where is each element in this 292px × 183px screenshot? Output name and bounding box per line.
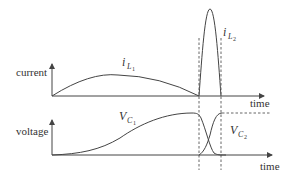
il1-label: i L 1 (122, 55, 135, 72)
voltage-axis-label: voltage (16, 125, 48, 137)
vc2-label: V C 2 (230, 123, 247, 140)
voltage-panel: voltage time V C 1 V C 2 (16, 109, 280, 172)
switching-waveform-diagram: current time i L 1 i L 2 voltage time V … (0, 0, 292, 183)
svg-text:1: 1 (133, 120, 136, 126)
current-time-label: time (250, 97, 270, 109)
current-axis-label: current (16, 66, 47, 78)
svg-text:1: 1 (132, 66, 135, 72)
svg-text:2: 2 (233, 36, 236, 42)
vc2-curve (199, 113, 222, 155)
svg-text:i: i (223, 25, 226, 39)
il2-curve (199, 9, 221, 96)
svg-text:i: i (122, 55, 125, 69)
il1-curve (52, 75, 199, 96)
current-panel: current time i L 1 i L 2 (16, 9, 270, 170)
svg-text:2: 2 (244, 134, 247, 140)
voltage-time-label: time (260, 160, 280, 172)
il2-label: i L 2 (223, 25, 236, 42)
vc1-label: V C 1 (119, 109, 136, 126)
vc1-curve (52, 113, 226, 155)
